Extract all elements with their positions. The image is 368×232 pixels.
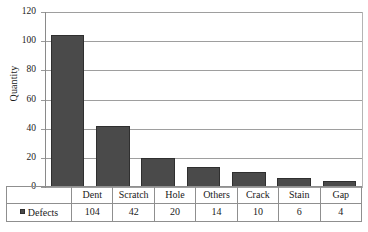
table-value-hole: 20 [154, 204, 195, 222]
y-tick-label-20: 20 [10, 153, 36, 163]
table-row-values: Defects 1044220141064 [7, 204, 362, 222]
bar-slot [232, 12, 266, 187]
table-category-scratch: Scratch [113, 187, 154, 204]
y-tick-label-40: 40 [10, 124, 36, 134]
table-value-dent: 104 [72, 204, 113, 222]
bars-layer [45, 12, 362, 187]
plot-area: Quantity 120100806040200 [0, 0, 368, 190]
legend-entry-defects: Defects [7, 204, 72, 222]
plot-frame-right [362, 12, 363, 188]
table-row-categories: DentScratchHoleOthersCrackStainGap [7, 187, 362, 204]
legend-key-icon [20, 209, 25, 214]
bar-dent[interactable] [51, 35, 85, 187]
table-category-gap: Gap [320, 187, 361, 204]
table-value-others: 14 [196, 204, 237, 222]
bar-slot [96, 12, 130, 187]
bar-hole[interactable] [141, 158, 175, 187]
table-category-crack: Crack [237, 187, 278, 204]
table-value-stain: 6 [279, 204, 320, 222]
bar-slot [141, 12, 175, 187]
y-tick-label-100: 100 [10, 36, 36, 46]
table-value-crack: 10 [237, 204, 278, 222]
y-tick-label-60: 60 [10, 95, 36, 105]
table-category-others: Others [196, 187, 237, 204]
bar-slot [323, 12, 357, 187]
bar-slot [51, 12, 85, 187]
table-category-stain: Stain [279, 187, 320, 204]
table-category-dent: Dent [72, 187, 113, 204]
bar-slot [187, 12, 221, 187]
bar-others[interactable] [187, 167, 221, 187]
data-table: DentScratchHoleOthersCrackStainGap Defec… [6, 186, 362, 222]
y-tick-label-80: 80 [10, 65, 36, 75]
table-category-hole: Hole [154, 187, 195, 204]
defects-bar-chart: Quantity 120100806040200 DentScratchHole… [0, 0, 368, 232]
table-value-gap: 4 [320, 204, 361, 222]
table-corner-cell [7, 187, 72, 204]
table-value-scratch: 42 [113, 204, 154, 222]
bar-crack[interactable] [232, 172, 266, 187]
y-tick-label-120: 120 [10, 7, 36, 17]
bar-slot [277, 12, 311, 187]
legend-label: Defects [28, 207, 59, 218]
y-axis-title: Quantity [8, 44, 19, 124]
bar-scratch[interactable] [96, 126, 130, 187]
